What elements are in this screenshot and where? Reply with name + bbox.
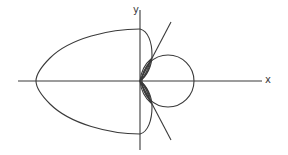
- x-axis-label: x: [265, 75, 271, 85]
- figure: y x: [0, 0, 288, 155]
- y-axis-label: y: [133, 5, 139, 15]
- plot-canvas: [0, 0, 288, 155]
